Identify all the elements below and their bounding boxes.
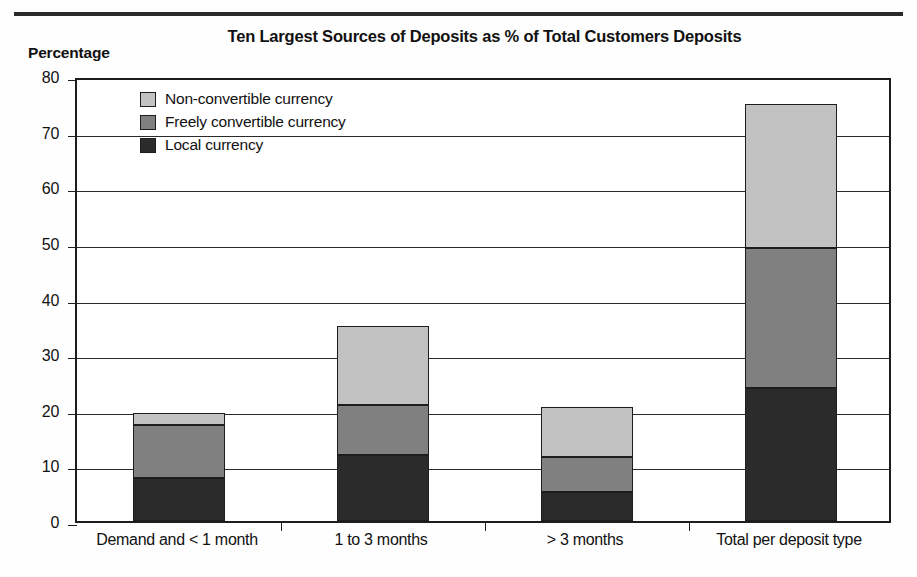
bar-segment[interactable] <box>541 407 633 457</box>
bar-segment[interactable] <box>337 326 429 405</box>
x-tick-label: 1 to 3 months <box>334 531 427 549</box>
chart-page: Ten Largest Sources of Deposits as % of … <box>0 0 917 577</box>
y-tick-label: 60 <box>13 180 59 198</box>
y-tick <box>68 525 77 526</box>
x-tick-label: Total per deposit type <box>716 531 862 549</box>
y-tick-label: 70 <box>13 125 59 143</box>
y-tick <box>68 136 77 137</box>
legend-item[interactable]: Local currency <box>140 136 346 154</box>
y-tick-label: 10 <box>13 458 59 476</box>
y-axis-title: Percentage <box>28 44 110 62</box>
chart-title: Ten Largest Sources of Deposits as % of … <box>0 27 917 46</box>
x-tick-label: > 3 months <box>547 531 624 549</box>
header-divider <box>14 12 903 16</box>
bar-segment[interactable] <box>745 248 837 387</box>
y-tick <box>68 247 77 248</box>
bar-segment[interactable] <box>133 425 225 478</box>
legend: Non-convertible currencyFreely convertib… <box>140 90 346 154</box>
x-tick <box>689 521 690 531</box>
legend-label: Non-convertible currency <box>165 90 333 108</box>
bar-segment[interactable] <box>541 492 633 521</box>
y-tick-label: 50 <box>13 236 59 254</box>
bar-segment[interactable] <box>745 388 837 522</box>
bar-segment[interactable] <box>337 455 429 521</box>
x-tick-label: Demand and < 1 month <box>96 531 258 549</box>
y-tick <box>68 303 77 304</box>
x-tick <box>281 521 282 531</box>
bar-segment[interactable] <box>337 405 429 455</box>
y-tick <box>68 358 77 359</box>
y-tick <box>68 414 77 415</box>
bar-segment[interactable] <box>745 104 837 249</box>
y-tick-label: 80 <box>13 69 59 87</box>
y-tick-label: 20 <box>13 403 59 421</box>
stacked-bar[interactable] <box>541 76 633 521</box>
stacked-bar[interactable] <box>337 76 429 521</box>
stacked-bar[interactable] <box>745 76 837 521</box>
bar-segment[interactable] <box>541 457 633 492</box>
y-tick-label: 0 <box>13 514 59 532</box>
bar-segment[interactable] <box>133 478 225 521</box>
y-tick <box>68 469 77 470</box>
y-tick <box>68 80 77 81</box>
legend-swatch-icon <box>140 92 156 107</box>
legend-label: Freely convertible currency <box>165 113 346 131</box>
y-tick-label: 30 <box>13 347 59 365</box>
bar-segment[interactable] <box>133 413 225 425</box>
legend-item[interactable]: Non-convertible currency <box>140 90 346 108</box>
legend-swatch-icon <box>140 138 156 153</box>
legend-item[interactable]: Freely convertible currency <box>140 113 346 131</box>
y-tick-label: 40 <box>13 292 59 310</box>
legend-swatch-icon <box>140 115 156 130</box>
y-tick <box>68 191 77 192</box>
legend-label: Local currency <box>165 136 263 154</box>
x-tick <box>485 521 486 531</box>
